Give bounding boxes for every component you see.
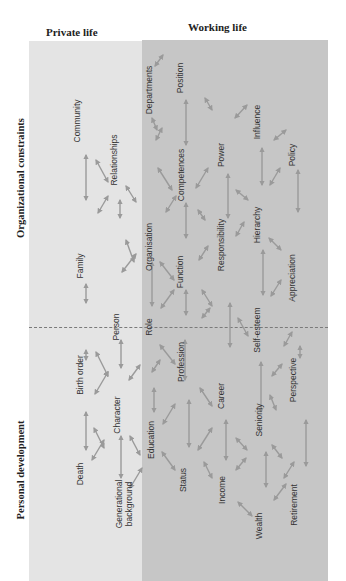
- double-arrow-icon: [204, 462, 212, 478]
- double-arrow-icon: [152, 360, 160, 372]
- double-arrow-icon: [198, 428, 212, 450]
- double-arrow-icon: [152, 118, 157, 130]
- double-arrow-icon: [129, 365, 140, 380]
- node-wealth: Wealth: [254, 513, 264, 539]
- double-arrow-icon: [161, 290, 174, 308]
- node-influence: Influence: [252, 105, 262, 140]
- double-arrow-icon: [94, 428, 104, 448]
- double-arrow-icon: [199, 246, 208, 260]
- double-arrow-icon: [160, 262, 174, 280]
- double-arrow-icon: [202, 290, 212, 306]
- double-arrow-icon: [205, 98, 212, 110]
- double-arrow-icon: [284, 462, 294, 478]
- node-birth-order: Birth order: [75, 355, 85, 395]
- node-hierarchy: Hierarchy: [252, 207, 262, 243]
- double-arrow-icon: [284, 332, 292, 346]
- node-competences: Competences: [176, 149, 186, 201]
- double-arrow-icon: [126, 186, 136, 202]
- double-arrow-icon: [155, 55, 163, 66]
- double-arrow-icon: [92, 440, 104, 460]
- double-arrow-icon: [272, 445, 282, 458]
- double-arrow-icon: [272, 364, 282, 376]
- node-community: Community: [72, 100, 82, 143]
- node-profession: Profession: [176, 342, 186, 382]
- double-arrow-icon: [238, 318, 248, 336]
- double-arrow-icon: [235, 105, 247, 118]
- double-arrow-icon: [96, 160, 108, 182]
- double-arrow-icon: [270, 168, 280, 185]
- node-organisation: Organisation: [144, 223, 154, 271]
- double-arrow-icon: [158, 168, 172, 190]
- double-arrow-icon: [274, 130, 286, 140]
- node-status: Status: [178, 468, 188, 492]
- double-arrow-icon: [274, 484, 286, 500]
- double-arrow-icon: [200, 388, 212, 406]
- node-self-esteem: Self-esteem: [252, 307, 262, 352]
- node-retirement: Retirement: [289, 484, 299, 526]
- double-arrow-icon: [196, 168, 208, 188]
- double-arrow-icon: [198, 210, 205, 220]
- node-power: Power: [216, 143, 226, 167]
- double-arrow-icon: [236, 458, 246, 470]
- double-arrow-icon: [269, 238, 281, 250]
- node-perspective: Perspective: [288, 358, 298, 402]
- node-relationships: Relationships: [109, 134, 119, 185]
- node-departments: Departments: [144, 66, 154, 115]
- node-appreciation: Appreciation: [287, 254, 297, 301]
- double-arrow-icon: [163, 404, 175, 424]
- double-arrow-icon: [271, 280, 281, 296]
- node-education: Education: [146, 421, 156, 459]
- node-position: Position: [175, 63, 185, 93]
- node-income: Income: [217, 476, 227, 504]
- node-death: Death: [75, 463, 85, 486]
- node-role: Role: [144, 318, 154, 335]
- double-arrow-icon: [236, 222, 244, 236]
- node-career: Career: [216, 383, 226, 409]
- double-arrow-icon: [95, 372, 108, 394]
- double-arrow-icon: [162, 452, 175, 470]
- double-arrow-icon: [96, 352, 108, 376]
- node-function: Function: [175, 256, 185, 289]
- double-arrow-icon: [122, 254, 136, 272]
- node-person: Person: [111, 314, 121, 341]
- double-arrow-icon: [270, 395, 276, 410]
- node-character: Character: [112, 396, 122, 433]
- double-arrow-icon: [166, 196, 176, 212]
- node-policy: Policy: [287, 144, 297, 167]
- double-arrow-icon: [238, 502, 252, 516]
- node-seniority: Seniority: [254, 403, 264, 436]
- double-arrow-icon: [202, 308, 210, 318]
- double-arrow-icon: [130, 436, 140, 455]
- double-arrow-icon: [98, 196, 108, 213]
- double-arrow-icon: [236, 190, 248, 200]
- double-arrow-icon: [160, 345, 175, 364]
- node-generational-background: Generational background: [114, 473, 134, 535]
- node-responsibility: Responsibility: [216, 219, 226, 271]
- node-family: Family: [75, 253, 85, 278]
- double-arrow-icon: [236, 438, 247, 450]
